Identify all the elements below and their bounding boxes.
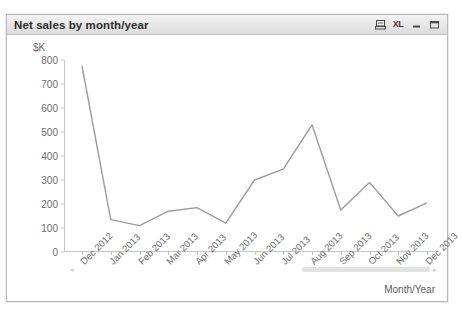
- excel-export-label: XL: [393, 20, 404, 29]
- scroll-right-arrow-icon[interactable]: ▸: [430, 265, 439, 274]
- y-axis-tick-label: 800: [41, 55, 58, 66]
- chart-panel: Net sales by month/year XL: [6, 14, 448, 302]
- scrollbar-thumb[interactable]: [302, 267, 430, 272]
- x-axis-title: Month/Year: [384, 284, 435, 295]
- titlebar-icon-group: XL: [374, 19, 447, 31]
- series-line-chart: [64, 60, 435, 252]
- maximize-icon[interactable]: [428, 19, 440, 31]
- y-axis-tick-label: 500: [41, 127, 58, 138]
- scrollbar-track[interactable]: [76, 265, 430, 274]
- screenshot-root: Net sales by month/year XL: [0, 0, 462, 316]
- y-axis-tick-label: 0: [52, 247, 58, 258]
- export-print-icon[interactable]: [374, 19, 386, 31]
- y-axis-unit-label: $K: [33, 42, 45, 53]
- excel-export-icon[interactable]: XL: [392, 19, 404, 31]
- panel-title: Net sales by month/year: [7, 19, 149, 31]
- y-axis-tick-label: 600: [41, 103, 58, 114]
- horizontal-scrollbar[interactable]: ◂ ▸: [67, 265, 439, 274]
- y-axis-tick-label: 400: [41, 151, 58, 162]
- chart-body: $K 8007006005004003002001000 Dec 2012Jan…: [7, 36, 447, 301]
- y-axis-tick-label: 700: [41, 79, 58, 90]
- y-axis-tick-label: 100: [41, 223, 58, 234]
- y-axis-tick-label: 200: [41, 199, 58, 210]
- y-axis-tick-label: 300: [41, 175, 58, 186]
- minimize-icon[interactable]: [410, 19, 422, 31]
- panel-titlebar[interactable]: Net sales by month/year XL: [7, 15, 447, 35]
- scroll-left-arrow-icon[interactable]: ◂: [67, 265, 76, 274]
- plot-area: 8007006005004003002001000 Dec 2012Jan 20…: [64, 60, 435, 252]
